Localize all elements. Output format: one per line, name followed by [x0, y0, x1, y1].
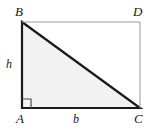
triangle-abc [22, 22, 140, 108]
side-label-base: b [73, 113, 79, 125]
side-label-height: h [6, 58, 12, 70]
geometry-figure: B D A C h b [0, 0, 154, 131]
vertex-label-a: A [16, 112, 24, 125]
vertex-label-b: B [15, 5, 23, 18]
vertex-label-c: C [134, 112, 143, 125]
vertex-label-d: D [133, 5, 142, 18]
